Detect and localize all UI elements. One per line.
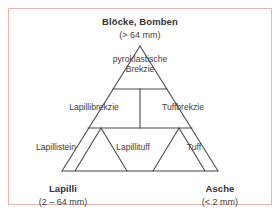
field-label-pyroklastische-brekzie-line1: pyroklastische	[113, 54, 167, 64]
apex-vertex-size-range: (> 64 mm)	[70, 30, 210, 40]
field-label-pyroklastische-brekzie: pyroklastische Brekzie	[90, 55, 190, 74]
bottom-left-vertex-name: Lapilli	[49, 183, 77, 194]
field-label-lapillituff: Lapillituff	[103, 143, 163, 153]
field-label-pyroklastische-brekzie-line2: Brekzie	[90, 65, 190, 75]
bottom-right-vertex-label-group: Asche (< 2 mm)	[170, 178, 270, 207]
apex-vertex-label-group: Blöcke, Bomben (> 64 mm)	[70, 11, 210, 40]
bottom-left-vertex-label-group: Lapilli (2 – 64 mm)	[8, 178, 118, 207]
field-label-lapillibrekzie: Lapillibrekzie	[58, 103, 130, 113]
bottom-right-vertex-size-range: (< 2 mm)	[170, 197, 270, 207]
apex-vertex-name: Blöcke, Bomben	[102, 16, 178, 27]
bottom-right-vertex-name: Asche	[205, 183, 234, 194]
bottom-left-vertex-size-range: (2 – 64 mm)	[8, 197, 118, 207]
field-label-tuff: Tuff	[178, 143, 210, 153]
field-label-tuffbrekzie: Tuffbrekzie	[152, 103, 214, 113]
field-label-lapillistein: Lapillistein	[23, 143, 89, 153]
